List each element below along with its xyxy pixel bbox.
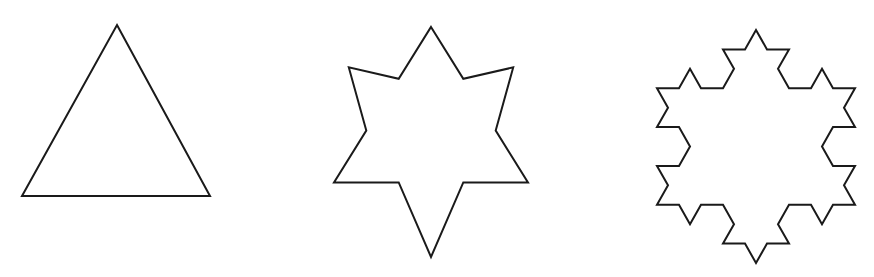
koch-snowflake-diagram: [0, 0, 874, 277]
background: [0, 0, 874, 277]
